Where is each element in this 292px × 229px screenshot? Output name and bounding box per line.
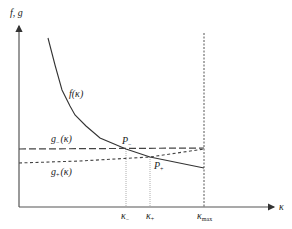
- g-minus-label: g−(κ): [51, 133, 73, 145]
- x-axis-label: κ: [279, 201, 284, 212]
- diagram-figure: f, g κ f(κ) g−(κ) g+(κ) P− P+ κ− κ+ κmax: [0, 0, 292, 229]
- kappa-max-tick-label: κmax: [197, 210, 212, 222]
- kappa-minus-tick-label: κ−: [121, 210, 130, 222]
- svg-text:κmax: κmax: [197, 210, 212, 222]
- kappa-plus-tick-label: κ+: [146, 210, 155, 222]
- y-axis-label: f, g: [10, 7, 23, 18]
- svg-text:κ+: κ+: [146, 210, 155, 222]
- svg-text:g−(κ): g−(κ): [51, 133, 73, 145]
- f-curve-label: f(κ): [69, 88, 84, 100]
- svg-text:P+: P+: [153, 160, 164, 172]
- g-minus-curve: [19, 148, 204, 149]
- g-plus-label: g+(κ): [51, 166, 73, 178]
- svg-text:κ−: κ−: [121, 210, 130, 222]
- p-minus-label: P−: [121, 135, 132, 147]
- svg-text:g+(κ): g+(κ): [51, 166, 73, 178]
- g-plus-curve: [19, 149, 204, 163]
- svg-text:P−: P−: [121, 135, 132, 147]
- p-plus-label: P+: [153, 160, 164, 172]
